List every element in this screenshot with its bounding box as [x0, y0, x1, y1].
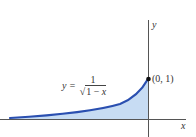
plot-canvas	[0, 0, 196, 137]
formula-denominator: √1 − x	[80, 86, 107, 97]
y-axis-label: y	[152, 19, 156, 30]
point-label: (0, 1)	[152, 73, 174, 84]
sqrt-radicand: 1 − x	[85, 85, 106, 97]
formula-fraction: 1 √1 − x	[80, 74, 107, 97]
x-axis-label: x	[181, 120, 185, 131]
radicand-var: x	[102, 86, 106, 97]
formula-lhs: y =	[62, 80, 76, 91]
curve-formula: y = 1 √1 − x	[62, 74, 106, 97]
point-marker	[146, 77, 151, 82]
radicand-prefix: 1 −	[86, 86, 102, 97]
